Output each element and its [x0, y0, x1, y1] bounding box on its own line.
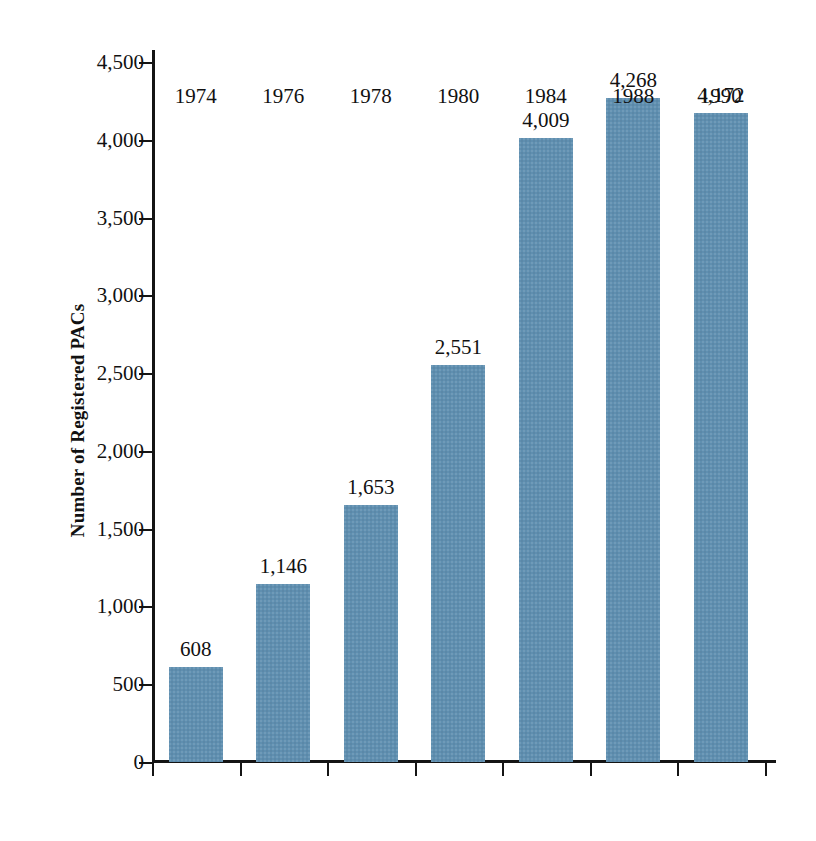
bar-value-label: 2,551: [435, 337, 482, 358]
x-axis-tick-label: 1988: [612, 84, 654, 109]
y-axis-tick-label: 1,000: [97, 596, 144, 617]
x-axis-tick-label: 1984: [525, 84, 567, 109]
x-axis-tick-label: 1978: [350, 84, 392, 109]
x-axis-tick-mark: [677, 762, 679, 776]
x-axis-tick-label: 1974: [175, 84, 217, 109]
y-axis-tick-label: 4,000: [97, 129, 144, 150]
y-axis-tick-label: 2,000: [97, 440, 144, 461]
bar: [694, 113, 748, 762]
bar: [431, 365, 485, 762]
x-axis-tick-label: 1990: [700, 84, 742, 109]
x-axis-tick-label: 1976: [262, 84, 304, 109]
x-axis-tick-mark: [415, 762, 417, 776]
x-axis-tick-mark: [152, 762, 154, 776]
y-axis-title: Number of Registered PACs: [52, 0, 104, 841]
x-axis-tick-mark: [590, 762, 592, 776]
bar: [519, 138, 573, 762]
plot-area: 05001,0001,5002,0002,5003,0003,5004,0004…: [152, 62, 775, 762]
bar-value-label: 608: [180, 639, 212, 660]
bar-value-label: 1,146: [260, 556, 307, 577]
y-axis-tick-label: 500: [113, 674, 145, 695]
x-axis-tick-mark: [240, 762, 242, 776]
y-axis-tick-label: 4,500: [97, 52, 144, 73]
bar: [256, 584, 310, 762]
y-axis-tick-label: 3,000: [97, 285, 144, 306]
bar-value-label: 4,009: [522, 110, 569, 131]
y-axis-tick-label: 1,500: [97, 518, 144, 539]
y-axis-tick-label: 3,500: [97, 207, 144, 228]
y-axis-tick-label: 0: [134, 752, 145, 773]
x-axis-tick-mark: [765, 762, 767, 776]
x-axis-tick-mark: [327, 762, 329, 776]
bar-chart: Number of Registered PACs 05001,0001,500…: [0, 0, 816, 841]
bar: [344, 505, 398, 762]
bar: [169, 667, 223, 762]
y-axis-tick-label: 2,500: [97, 363, 144, 384]
x-axis-tick-mark: [502, 762, 504, 776]
bar-value-label: 1,653: [347, 477, 394, 498]
x-axis-tick-label: 1980: [437, 84, 479, 109]
bar: [606, 98, 660, 762]
